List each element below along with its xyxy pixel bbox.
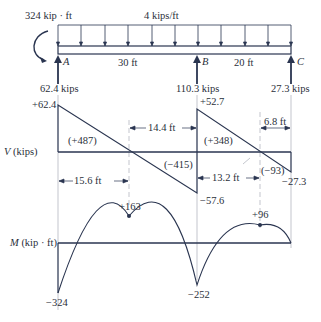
support-b-label: B [202, 57, 208, 68]
shear-area-2: (−415) [164, 160, 193, 171]
moment-value-max1: +163 [119, 202, 141, 213]
support-a-label: A [63, 57, 69, 68]
dim-15-6: 15.6 ft [74, 176, 101, 187]
support-c-label: C [297, 57, 304, 68]
dim-6-8: 6.8 ft [264, 117, 286, 128]
beam-diagram-svg [0, 0, 321, 322]
shear-area-3: (+348) [204, 136, 233, 147]
span-ab-label: 30 ft [118, 58, 138, 69]
beam [58, 46, 291, 54]
distributed-load-label: 4 kips/ft [144, 11, 179, 22]
shear-area-1: (+487) [68, 136, 97, 147]
applied-moment-label: 324 kip · ft [25, 11, 72, 22]
moment-axis-label: M (kip · ft) [10, 238, 57, 249]
shear-value-c: −27.3 [282, 177, 306, 188]
moment-value-b: −252 [188, 290, 210, 301]
shear-area-4: (−93) [261, 166, 284, 177]
moment-value-a: −324 [46, 298, 68, 309]
shear-axis-label: V (kips) [4, 147, 38, 158]
applied-moment-icon [34, 31, 48, 63]
shear-value-b-left: −57.6 [200, 196, 224, 207]
reaction-a-label: 62.4 kips [40, 84, 79, 95]
moment-value-max2: +96 [252, 210, 268, 221]
reaction-b-label: 110.3 kips [176, 84, 219, 95]
load-arrows [57, 25, 293, 46]
reaction-c-label: 27.3 kips [271, 84, 310, 95]
shear-value-a: +62.4 [32, 100, 56, 111]
shear-value-b-right: +52.7 [200, 97, 224, 108]
reaction-arrows [56, 57, 294, 84]
distributed-load [57, 25, 293, 46]
span-bc-label: 20 ft [234, 58, 254, 69]
dim-13-2: 13.2 ft [212, 173, 239, 184]
dim-14-4: 14.4 ft [148, 123, 175, 134]
